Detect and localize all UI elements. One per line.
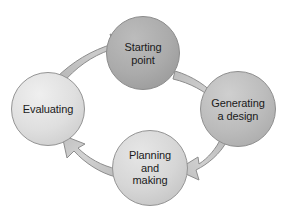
arrow-planning-to-evaluating xyxy=(62,135,117,177)
node-circle-generating-a-design xyxy=(201,72,276,147)
node-circle-starting-point xyxy=(107,17,180,90)
node-circle-evaluating xyxy=(12,73,85,146)
node-circle-planning-and-making xyxy=(113,131,188,206)
cycle-diagram-canvas xyxy=(0,0,287,217)
cycle-diagram: Starting point Generating a design Plann… xyxy=(0,0,287,217)
